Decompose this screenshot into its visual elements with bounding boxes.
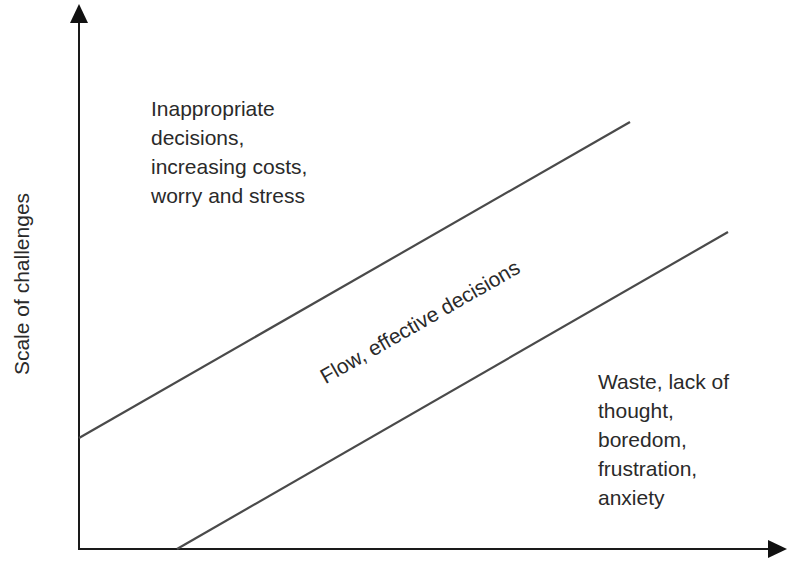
y-axis-arrow-icon [70,4,88,23]
region-label-line: increasing costs, [151,152,307,181]
anxiety-region-label: Inappropriate decisions, increasing cost… [151,94,307,210]
region-label-line: anxiety [598,483,729,512]
boredom-region-label: Waste, lack of thought, boredom, frustra… [598,367,729,512]
region-label-line: worry and stress [151,181,307,210]
region-label-line: frustration, [598,454,729,483]
region-label-line: thought, [598,396,729,425]
x-axis-arrow-icon [768,540,787,558]
region-label-line: decisions, [151,123,307,152]
region-label-line: boredom, [598,425,729,454]
y-axis-label: Scale of challenges [10,193,34,375]
region-label-line: Waste, lack of [598,367,729,396]
region-label-line: Inappropriate [151,94,307,123]
